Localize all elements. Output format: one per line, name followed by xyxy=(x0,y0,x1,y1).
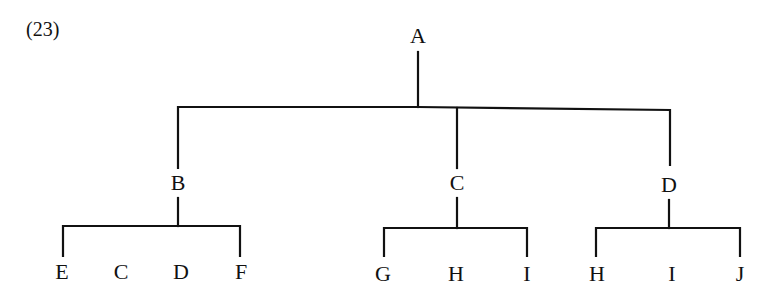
root-node-label: A xyxy=(410,25,426,47)
tree-branches xyxy=(0,0,773,303)
b-bar xyxy=(63,226,240,256)
c-bar xyxy=(384,228,527,256)
branch-node-label: B xyxy=(171,172,186,194)
leaf-node-label: E xyxy=(55,261,68,283)
leaf-node-label: H xyxy=(589,263,605,285)
d-bar xyxy=(596,228,740,256)
leaf-node-label: H xyxy=(448,263,464,285)
leaf-node-label: I xyxy=(523,263,530,285)
leaf-node-label: J xyxy=(736,263,745,285)
leaf-node-label: G xyxy=(375,263,391,285)
leaf-node-label: D xyxy=(173,261,189,283)
level1-bar xyxy=(178,107,670,168)
leaf-node-label: F xyxy=(235,261,247,283)
leaf-node-label: I xyxy=(668,263,675,285)
leaf-node-label: C xyxy=(114,261,129,283)
branch-node-label: D xyxy=(661,174,677,196)
branch-node-label: C xyxy=(450,172,465,194)
